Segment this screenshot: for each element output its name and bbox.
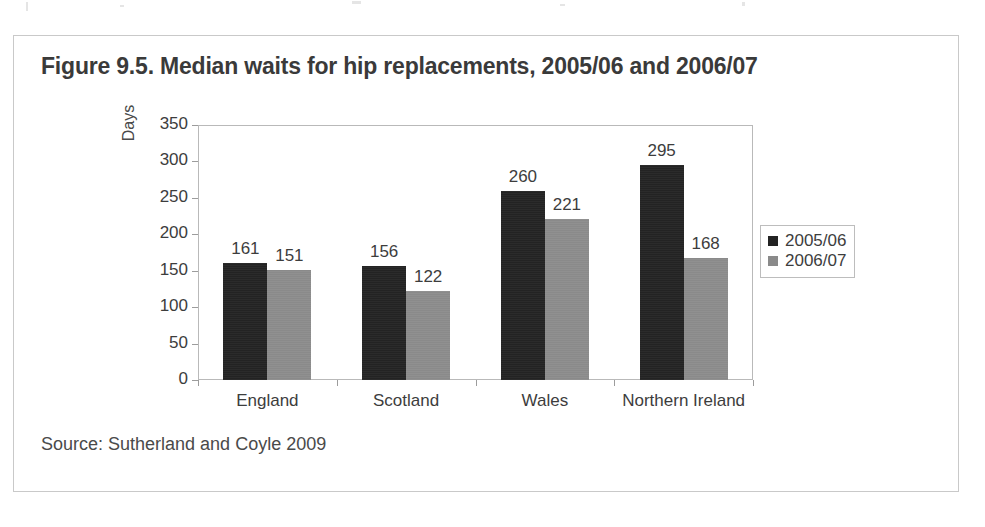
x-axis-tick-mark [198, 380, 199, 386]
bar-chart: Days 050100150200250300350 1611511561222… [14, 36, 960, 493]
y-axis-tick-label: 250 [146, 187, 188, 207]
bar [223, 263, 267, 380]
bar-value-label: 260 [493, 167, 553, 187]
x-axis-tick-mark [476, 380, 477, 386]
legend-item: 2006/07 [768, 251, 846, 271]
bar [406, 291, 450, 380]
bar-value-label: 295 [632, 141, 692, 161]
y-axis-tick-label: 200 [146, 223, 188, 243]
legend-item-label: 2005/06 [785, 231, 846, 251]
bar [545, 219, 589, 380]
y-axis-tick-label: 0 [146, 369, 188, 389]
x-axis-tick-mark [753, 380, 754, 386]
y-axis-tick-label: 100 [146, 296, 188, 316]
y-axis-tick-label: 50 [146, 333, 188, 353]
y-axis-title: Days [120, 63, 138, 183]
bar-value-label: 168 [676, 234, 736, 254]
legend-swatch-icon [768, 236, 778, 246]
x-axis-tick-mark [337, 380, 338, 386]
bar [640, 165, 684, 380]
legend-swatch-icon [768, 256, 778, 266]
scan-artifact [560, 4, 565, 6]
bar [501, 191, 545, 380]
y-axis-tick-label: 300 [146, 150, 188, 170]
y-axis-tick-label: 150 [146, 260, 188, 280]
bar [684, 258, 728, 380]
bar-value-label: 151 [259, 246, 319, 266]
figure-source: Source: Sutherland and Coyle 2009 [41, 434, 326, 455]
scan-artifact [26, 2, 28, 11]
scan-artifact [120, 5, 124, 7]
x-axis-tick-mark [614, 380, 615, 386]
scan-artifact [742, 2, 745, 6]
bar-value-label: 156 [354, 242, 414, 262]
bar [267, 270, 311, 380]
chart-legend: 2005/062006/07 [760, 225, 855, 278]
scan-artifact [352, 1, 361, 4]
legend-item-label: 2006/07 [785, 251, 846, 271]
bar-value-label: 221 [537, 195, 597, 215]
bar-value-label: 122 [398, 267, 458, 287]
y-axis-tick-label: 350 [146, 114, 188, 134]
figure-card: Figure 9.5. Median waits for hip replace… [13, 35, 959, 492]
legend-item: 2005/06 [768, 231, 846, 251]
x-axis-category-label: Northern Ireland [594, 391, 773, 411]
